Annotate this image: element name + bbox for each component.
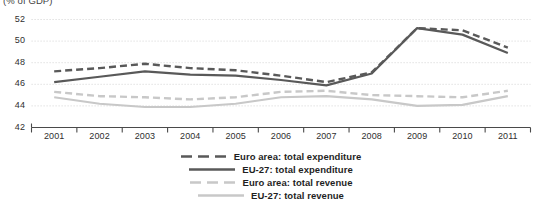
x-axis-tick-label: 2004 <box>168 131 213 141</box>
legend-label: EU-27: total expenditure <box>242 164 352 175</box>
legend-item[interactable]: Euro area: total revenue <box>190 176 353 188</box>
plot-area <box>0 0 542 146</box>
legend-item[interactable]: EU-27: total expenditure <box>189 163 352 175</box>
chart-canvas <box>0 0 542 146</box>
legend-label: Euro area: total revenue <box>243 177 353 188</box>
legend-item[interactable]: Euro area: total expenditure <box>181 150 362 162</box>
y-axis-tick-label: 48 <box>9 57 25 67</box>
y-axis-tick-label: 42 <box>9 122 25 132</box>
legend-line-icon <box>181 151 227 162</box>
legend-label: Euro area: total expenditure <box>234 151 362 162</box>
y-axis-tick-label: 44 <box>9 100 25 110</box>
legend-line-icon <box>190 177 236 188</box>
y-axis-tick-label: 46 <box>9 78 25 88</box>
legend-line-icon <box>189 164 235 175</box>
x-axis-tick-label: 2001 <box>32 131 77 141</box>
legend-label: EU-27: total revenue <box>251 190 344 201</box>
chart-screenshot: (% of GDP) 525048464442 2001200220032004… <box>0 0 542 204</box>
x-axis-tick-label: 2002 <box>77 131 122 141</box>
legend-line-icon <box>198 190 244 201</box>
chart-legend: Euro area: total expenditureEU-27: total… <box>0 150 542 201</box>
x-axis-tick-label: 2005 <box>213 131 258 141</box>
x-axis-tick-label: 2010 <box>440 131 485 141</box>
x-axis-tick-label: 2006 <box>258 131 303 141</box>
x-axis-tick-label: 2003 <box>122 131 167 141</box>
x-axis-tick-label: 2008 <box>349 131 394 141</box>
x-axis-tick-label: 2007 <box>304 131 349 141</box>
x-axis-tick-label: 2011 <box>485 131 530 141</box>
y-axis-tick-label: 52 <box>9 14 25 24</box>
series-line <box>54 28 508 85</box>
x-axis-tick-label: 2009 <box>394 131 439 141</box>
y-axis-tick-label: 50 <box>9 35 25 45</box>
legend-item[interactable]: EU-27: total revenue <box>198 189 344 201</box>
